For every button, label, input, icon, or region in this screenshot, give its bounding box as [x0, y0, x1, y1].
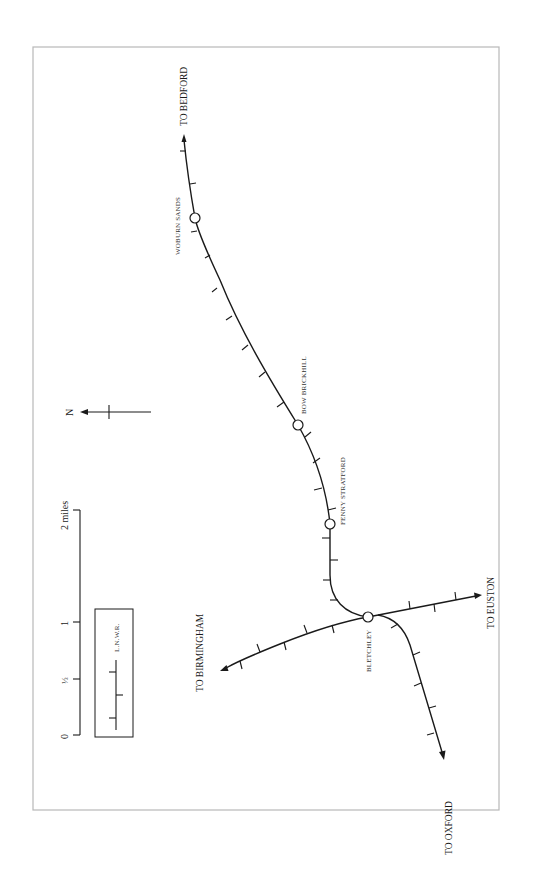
label-to-oxford: TO OXFORD [444, 801, 454, 855]
legend-label-lnwr: L.N.W.R. [113, 623, 121, 652]
line-bletchley-oxford [378, 615, 446, 760]
label-bletchley: BLETCHLEY [365, 629, 373, 672]
arrow-to-oxford-icon [439, 751, 446, 761]
scale-label-half: ½ [60, 677, 70, 684]
scale-label-2-miles: 2 miles [59, 501, 70, 530]
arrow-to-birmingham-icon [220, 665, 229, 671]
station-woburn-sands [190, 213, 200, 223]
scale-bar: 2 miles 1 ½ 0 [59, 501, 80, 739]
label-bow-brickhill: BOW BRICKHILL [300, 356, 308, 414]
legend: L.N.W.R. [95, 609, 133, 737]
railway-map: WOBURN SANDS BOW BRICKHILL FENNY STRATFO… [0, 0, 537, 870]
arrow-to-euston-icon [474, 593, 482, 600]
legend-lnwr-symbol [109, 660, 123, 730]
station-bow-brickhill [293, 420, 303, 430]
label-to-euston: TO EUSTON [486, 577, 496, 629]
label-to-bedford: TO BEDFORD [179, 67, 189, 126]
scale-label-0: 0 [59, 734, 70, 739]
line-bletchley-bedford [180, 134, 368, 617]
north-label: N [64, 409, 75, 416]
arrow-to-bedford-icon [182, 134, 187, 142]
map-frame [33, 47, 499, 810]
north-arrow: N [64, 405, 151, 419]
label-to-birmingham: TO BIRMINGHAM [195, 613, 205, 692]
north-arrow-head-icon [80, 409, 88, 415]
line-bletchley-euston [368, 592, 482, 617]
station-bletchley [363, 612, 373, 622]
line-bletchley-birmingham [220, 617, 368, 671]
label-fenny-stratford: FENNY STRATFORD [339, 457, 347, 525]
station-fenny-stratford [325, 519, 335, 529]
scale-label-1: 1 [59, 621, 70, 626]
label-woburn-sands: WOBURN SANDS [174, 197, 182, 255]
